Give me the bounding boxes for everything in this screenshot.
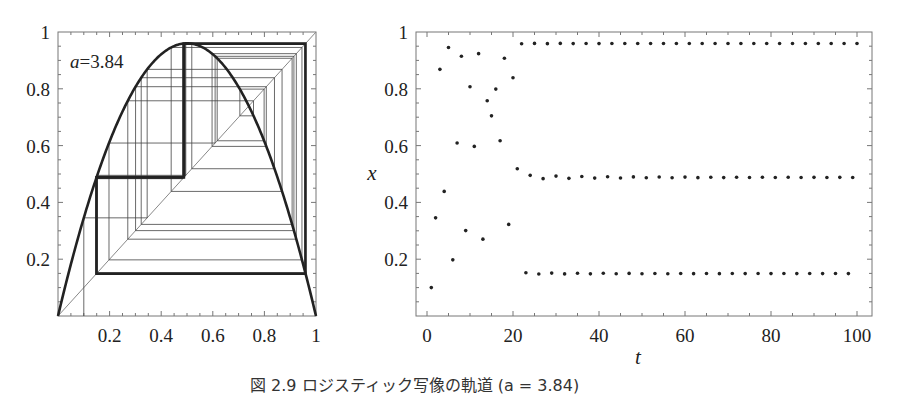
- y-tick-label: 0.4: [384, 192, 408, 213]
- data-point: [481, 237, 485, 241]
- data-point: [842, 42, 846, 46]
- x-tick-label: 40: [590, 325, 609, 346]
- data-point: [851, 176, 855, 180]
- data-point: [705, 272, 709, 276]
- data-point: [683, 175, 687, 179]
- data-point: [520, 42, 524, 46]
- data-point: [675, 42, 679, 46]
- y-tick-label: 0.4: [26, 192, 50, 213]
- y-tick-label: 0.8: [384, 79, 408, 100]
- data-point: [700, 42, 704, 46]
- data-point: [503, 56, 507, 60]
- x-tick-label: 0.6: [201, 325, 225, 346]
- x-tick-label: 0.2: [98, 325, 122, 346]
- data-point: [670, 176, 674, 180]
- y-tick-label: 0.2: [26, 249, 50, 270]
- data-point: [838, 176, 842, 180]
- x-tick-label: 1: [311, 325, 321, 346]
- data-point: [696, 176, 700, 180]
- data-point: [834, 272, 838, 276]
- data-point: [537, 272, 541, 276]
- x-tick-label: 0: [422, 325, 432, 346]
- data-point: [602, 272, 606, 276]
- data-point: [679, 272, 683, 276]
- data-point: [528, 174, 532, 178]
- data-point: [576, 271, 580, 275]
- data-point: [632, 175, 636, 179]
- data-point: [627, 272, 631, 276]
- y-tick-label: 0.2: [384, 249, 408, 270]
- data-point: [786, 176, 790, 180]
- data-point: [464, 229, 468, 233]
- data-point: [597, 42, 601, 46]
- x-tick-label: 100: [843, 325, 872, 346]
- y-tick-label: 0.8: [26, 79, 50, 100]
- data-point: [713, 42, 717, 46]
- y-tick-label: 0.6: [26, 136, 50, 157]
- y-tick-label: 1: [399, 22, 409, 43]
- data-point: [563, 272, 567, 276]
- data-point: [804, 42, 808, 46]
- data-point: [799, 176, 803, 180]
- data-point: [636, 42, 640, 46]
- data-point: [485, 99, 489, 103]
- data-point: [817, 42, 821, 46]
- data-point: [782, 272, 786, 276]
- data-point: [619, 176, 623, 180]
- data-point: [657, 175, 661, 179]
- data-point: [550, 271, 554, 275]
- data-point: [460, 55, 464, 59]
- data-point: [662, 42, 666, 46]
- data-point: [473, 145, 477, 149]
- data-point: [610, 42, 614, 46]
- cobweb-path: [84, 43, 306, 316]
- data-point: [447, 46, 451, 50]
- data-point: [623, 42, 627, 46]
- data-point: [455, 141, 459, 145]
- data-point: [709, 175, 713, 179]
- figure-caption: 図 2.9 ロジスティック写像の軌道 (a = 3.84): [250, 372, 579, 396]
- data-point: [718, 272, 722, 276]
- data-point: [516, 167, 520, 171]
- data-point: [541, 177, 545, 181]
- data-point: [645, 176, 649, 180]
- data-point: [812, 176, 816, 180]
- data-point: [692, 272, 696, 276]
- data-point: [739, 42, 743, 46]
- y-tick-label: 1: [41, 22, 51, 43]
- data-point: [855, 42, 859, 46]
- data-point: [589, 272, 593, 276]
- data-point: [584, 42, 588, 46]
- x-tick-label: 0.8: [253, 325, 277, 346]
- data-point: [722, 176, 726, 180]
- data-point: [498, 139, 502, 143]
- time-series-plot: 0204060801000.20.40.60.81tx: [366, 22, 872, 369]
- data-point: [468, 85, 472, 89]
- data-point: [769, 272, 773, 276]
- data-point: [726, 42, 730, 46]
- data-point: [614, 272, 618, 276]
- data-point: [847, 272, 851, 276]
- data-point: [571, 42, 575, 46]
- data-point: [490, 114, 494, 118]
- data-point: [748, 176, 752, 180]
- x-tick-label: 20: [504, 325, 523, 346]
- data-point: [795, 272, 799, 276]
- data-point: [649, 42, 653, 46]
- timeseries-frame: [416, 32, 872, 316]
- x-tick-label: 80: [762, 325, 781, 346]
- data-point: [567, 177, 571, 181]
- data-point: [778, 42, 782, 46]
- data-point: [666, 272, 670, 276]
- data-point: [752, 42, 756, 46]
- data-point: [761, 175, 765, 179]
- data-point: [606, 175, 610, 179]
- data-point: [507, 223, 511, 227]
- x-axis-label: t: [635, 345, 642, 369]
- data-point: [640, 272, 644, 276]
- data-point: [546, 42, 550, 46]
- data-point: [688, 42, 692, 46]
- data-point: [430, 286, 434, 290]
- data-point: [653, 272, 657, 276]
